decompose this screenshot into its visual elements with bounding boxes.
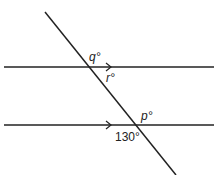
angle-p-label: p°	[140, 109, 153, 123]
transversal-line	[45, 12, 176, 175]
angle-r-label: r°	[106, 71, 115, 85]
angle-130-label: 130°	[115, 130, 140, 144]
diagram: q° r° p° 130°	[0, 0, 218, 175]
angle-q-label: q°	[89, 50, 101, 64]
